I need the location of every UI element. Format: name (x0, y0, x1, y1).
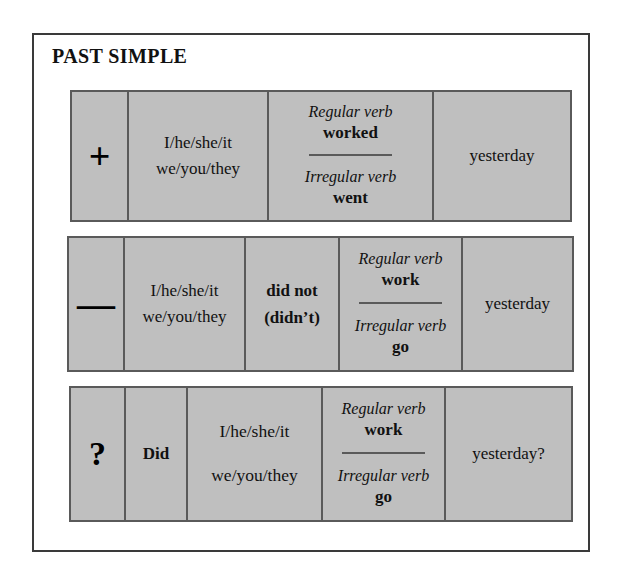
pronoun-line-2: we/you/they (211, 454, 298, 498)
verb-cell-positive: Regular verb worked Irregular verb went (269, 92, 434, 220)
irregular-verb-form: went (333, 187, 368, 208)
time-expression-negative: yesterday (463, 238, 572, 370)
page-title: PAST SIMPLE (52, 45, 187, 68)
pronoun-line-2: we/you/they (156, 156, 240, 182)
pronoun-line-1: I/he/she/it (220, 410, 290, 454)
irregular-verb-half-question: Irregular verb go (338, 454, 429, 520)
auxiliary-line-2: (didn’t) (264, 304, 320, 331)
question-mark-icon: ? (71, 388, 126, 520)
verb-cell-negative: Regular verb work Irregular verb go (340, 238, 463, 370)
irregular-verb-half-negative: Irregular verb go (355, 304, 446, 370)
page-canvas: PAST SIMPLE + I/he/she/it we/you/they Re… (0, 0, 625, 576)
plus-sign-icon: + (72, 92, 129, 220)
regular-verb-half-question: Regular verb work (342, 388, 426, 454)
regular-verb-form: worked (323, 122, 378, 143)
regular-verb-half-positive: Regular verb worked (309, 92, 393, 156)
minus-sign-icon: — (69, 238, 125, 370)
grammar-chart-frame: PAST SIMPLE + I/he/she/it we/you/they Re… (32, 33, 590, 552)
regular-verb-label: Regular verb (342, 399, 426, 419)
row-positive: + I/he/she/it we/you/they Regular verb w… (70, 90, 572, 222)
regular-verb-form: work (365, 419, 403, 440)
pronoun-line-1: I/he/she/it (164, 130, 232, 156)
irregular-verb-half-positive: Irregular verb went (305, 156, 396, 220)
subject-pronouns-question: I/he/she/it we/you/they (188, 388, 323, 520)
auxiliary-line-1: did not (266, 277, 318, 304)
regular-verb-half-negative: Regular verb work (359, 238, 443, 304)
irregular-verb-form: go (375, 486, 392, 507)
subject-pronouns-negative: I/he/she/it we/you/they (125, 238, 246, 370)
irregular-verb-label: Irregular verb (355, 316, 446, 336)
auxiliary-negative: did not (didn’t) (246, 238, 340, 370)
row-question: ? Did I/he/she/it we/you/they Regular ve… (69, 386, 573, 522)
irregular-verb-label: Irregular verb (338, 466, 429, 486)
subject-pronouns-positive: I/he/she/it we/you/they (129, 92, 269, 220)
row-negative: — I/he/she/it we/you/they did not (didn’… (67, 236, 574, 372)
pronoun-line-2: we/you/they (142, 304, 226, 330)
auxiliary-question: Did (126, 388, 188, 520)
regular-verb-form: work (382, 269, 420, 290)
verb-cell-question: Regular verb work Irregular verb go (323, 388, 446, 520)
regular-verb-label: Regular verb (309, 102, 393, 122)
pronoun-line-1: I/he/she/it (151, 278, 219, 304)
time-expression-positive: yesterday (434, 92, 570, 220)
irregular-verb-label: Irregular verb (305, 167, 396, 187)
irregular-verb-form: go (392, 336, 409, 357)
regular-verb-label: Regular verb (359, 249, 443, 269)
time-expression-question: yesterday? (446, 388, 571, 520)
